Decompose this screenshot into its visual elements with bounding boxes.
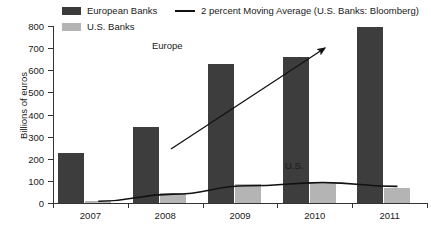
bar-us-banks	[310, 184, 336, 203]
y-tick-label: 0	[39, 198, 44, 209]
legend-line-sample-moving-average	[175, 10, 195, 12]
bar-us-banks	[235, 184, 261, 203]
y-tick: 300	[48, 137, 53, 138]
y-tick-label: 100	[28, 176, 44, 187]
y-tick-label: 300	[28, 132, 44, 143]
x-tick	[203, 203, 204, 208]
bar-european-banks	[357, 27, 383, 203]
y-tick: 500	[48, 92, 53, 93]
x-axis-line	[53, 203, 427, 204]
chart-container: European Banks U.S. Banks 2 percent Movi…	[0, 0, 431, 235]
y-axis-line	[53, 26, 54, 203]
y-tick-label: 800	[28, 21, 44, 32]
legend-label-moving-average: 2 percent Moving Average (U.S. Banks: Bl…	[201, 6, 419, 16]
y-tick-label: 400	[28, 110, 44, 121]
y-tick: 100	[48, 181, 53, 182]
bar-us-banks	[384, 188, 410, 203]
bar-european-banks	[133, 127, 159, 203]
x-tick-label: 2007	[80, 210, 101, 221]
x-tick-label: 2010	[304, 210, 325, 221]
x-tick	[128, 203, 129, 208]
x-tick	[277, 203, 278, 208]
y-tick: 800	[48, 26, 53, 27]
y-tick-label: 700	[28, 43, 44, 54]
legend-label-european-banks: European Banks	[87, 6, 157, 16]
annotation-europe: Europe	[152, 40, 183, 51]
y-tick-label: 500	[28, 87, 44, 98]
y-tick: 600	[48, 70, 53, 71]
y-axis-title: Billions of euros	[18, 46, 29, 166]
x-tick	[427, 203, 428, 208]
bar-us-banks	[160, 193, 186, 203]
bar-us-banks	[85, 201, 111, 203]
y-tick-label: 600	[28, 65, 44, 76]
y-tick: 200	[48, 159, 53, 160]
bar-european-banks	[283, 57, 309, 203]
legend-item-european-banks: European Banks	[62, 6, 157, 16]
bar-european-banks	[58, 153, 84, 203]
legend-item-moving-average: 2 percent Moving Average (U.S. Banks: Bl…	[175, 6, 419, 16]
x-tick	[53, 203, 54, 208]
x-tick	[352, 203, 353, 208]
annotation-us: U.S.	[285, 160, 303, 171]
legend-swatch-european-banks	[62, 7, 81, 15]
y-tick: 400	[48, 115, 53, 116]
y-tick: 700	[48, 48, 53, 49]
y-tick-label: 200	[28, 154, 44, 165]
bar-european-banks	[208, 64, 234, 203]
plot-area: 0100200300400500600700800 20072008200920…	[53, 26, 427, 203]
x-tick-label: 2009	[229, 210, 250, 221]
x-tick-label: 2011	[379, 210, 399, 221]
x-tick-label: 2008	[155, 210, 176, 221]
